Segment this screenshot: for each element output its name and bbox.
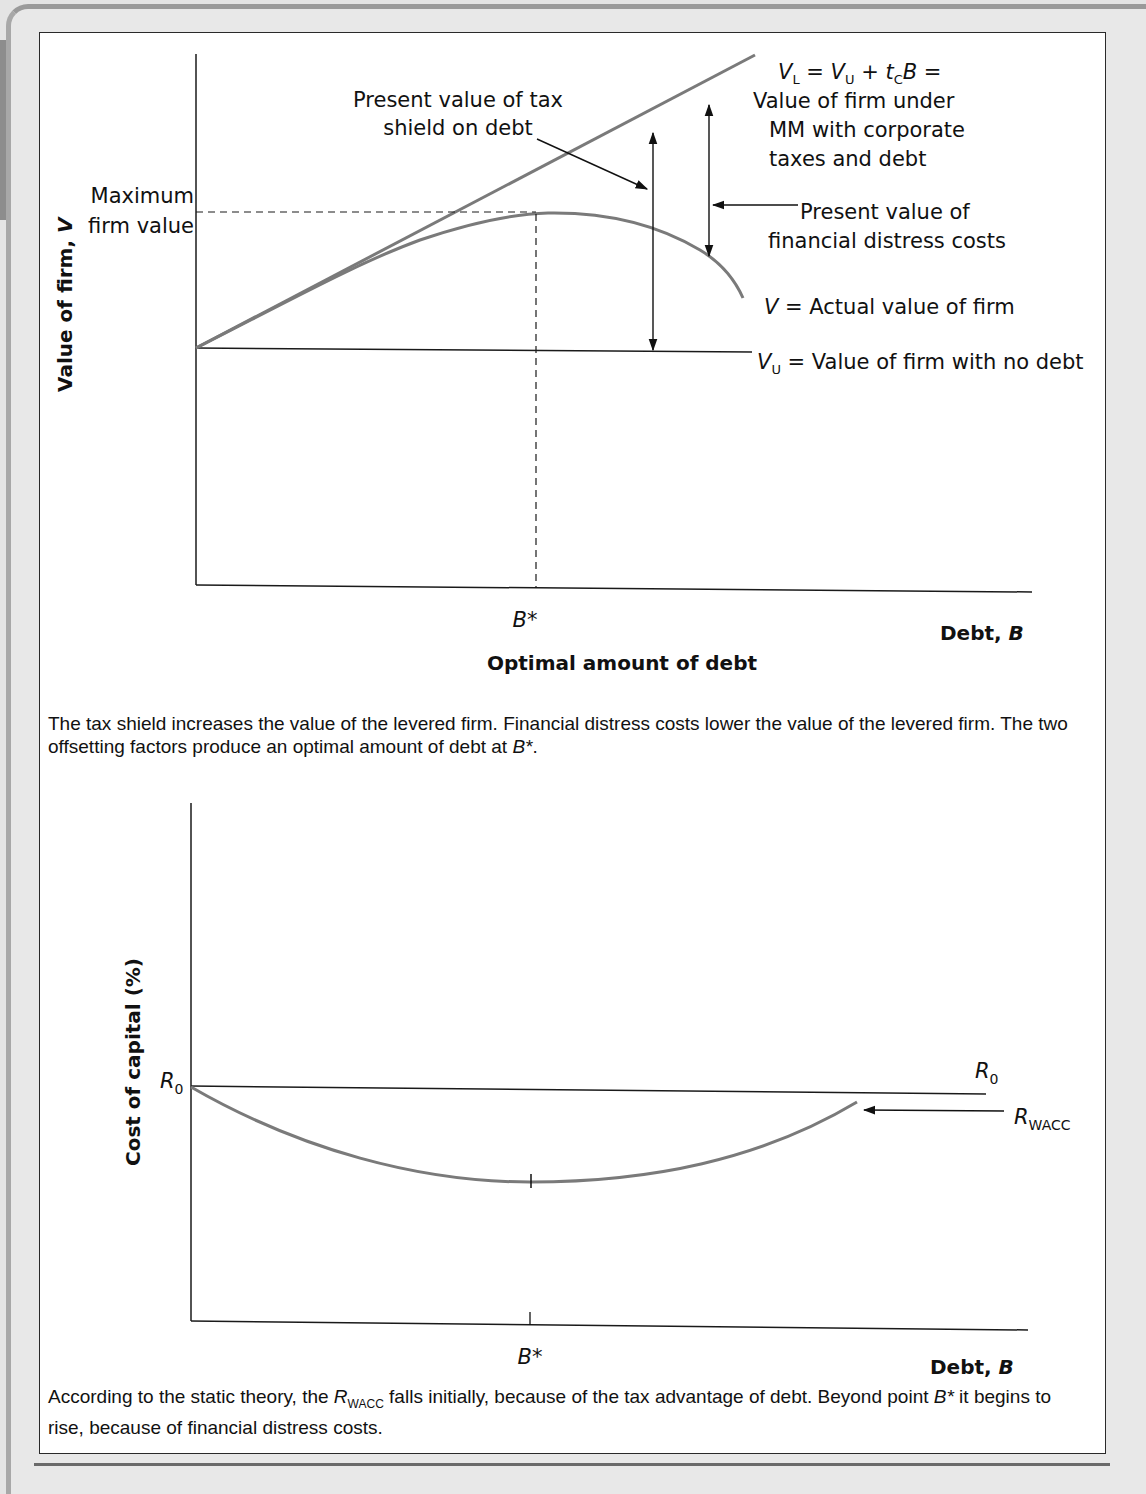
bottom-chart: R0 R0 RWACC Cost of capital (%) B* Debt,… [121, 803, 1071, 1379]
actual-value-curve [196, 213, 743, 348]
vu-label: VU = Value of firm with no debt [757, 350, 1084, 377]
vl-formula: VL = VU + tCB = [778, 60, 941, 87]
r0-right-label: R0 [975, 1059, 999, 1087]
bottom-caption: According to the static theory, the RWAC… [48, 1385, 1088, 1439]
actual-value-label: V = Actual value of firm [764, 295, 1015, 319]
bottom-y-axis-label: Cost of capital (%) [121, 958, 145, 1166]
tax-shield-label-1: Present value of tax [353, 88, 563, 112]
vl-label-2: Value of firm under [753, 89, 955, 113]
max-value-label-1: Maximum [91, 184, 194, 208]
top-chart: Maximum firm value Present value of tax … [53, 54, 1084, 675]
tax-shield-pointer [537, 139, 647, 189]
top-chart-title: Optimal amount of debt [487, 651, 758, 675]
rwacc-label: RWACC [1014, 1105, 1071, 1133]
bottom-x-axis-label: Debt, B [930, 1355, 1014, 1379]
top-caption: The tax shield increases the value of th… [48, 712, 1088, 758]
top-bstar-tick-label: B* [513, 608, 538, 632]
max-value-label-2: firm value [88, 214, 194, 238]
r0-line [191, 1086, 986, 1094]
tax-shield-label-2: shield on debt [383, 116, 533, 140]
rwacc-pointer [864, 1110, 1004, 1111]
vl-label-4: taxes and debt [769, 147, 926, 171]
r0-left-label: R0 [160, 1069, 184, 1097]
vl-label-3: MM with corporate [769, 118, 965, 142]
vu-line [196, 348, 752, 352]
top-x-axis-label: Debt, B [940, 621, 1024, 645]
distress-label-1: Present value of [800, 200, 970, 224]
bottom-bstar-tick-label: B* [518, 1345, 543, 1369]
distress-label-2: financial distress costs [768, 229, 1006, 253]
bottom-x-axis [191, 1321, 1028, 1330]
top-x-axis [196, 585, 1032, 592]
top-y-axis-label: Value of firm, V [53, 216, 77, 392]
rwacc-curve [191, 1087, 857, 1182]
